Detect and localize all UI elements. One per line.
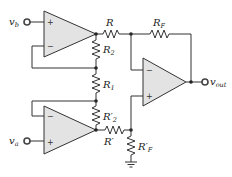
label-R2-prime: R′2 <box>102 111 117 124</box>
right-opamp-plus: + <box>146 92 153 101</box>
resistor-RF-prime <box>127 130 135 162</box>
top-opamp-minus: − <box>47 42 54 51</box>
vout-terminal <box>202 79 208 85</box>
va-label: va <box>9 135 19 148</box>
label-R: R <box>105 17 114 28</box>
resistor-R2 <box>92 34 100 68</box>
vout-label: vout <box>210 76 227 89</box>
vb-label: vb <box>9 16 19 29</box>
circuit-svg: + − vb R RF R2 R1 R′2 − + va R′ R′F <box>0 0 232 177</box>
label-RF-prime: R′F <box>137 141 153 154</box>
output-node <box>189 80 193 84</box>
top-opamp-plus: + <box>47 18 54 27</box>
label-R1: R1 <box>102 79 115 92</box>
noninv-input-wire <box>131 96 143 130</box>
bottom-opamp-plus: + <box>47 138 54 147</box>
top-feedback-wire <box>32 46 96 68</box>
bottom-opamp-minus: − <box>47 112 54 121</box>
resistor-R <box>100 30 131 38</box>
inv-input-wire <box>131 34 143 70</box>
vb-terminal <box>24 19 30 25</box>
label-RF: RF <box>152 17 166 30</box>
label-R2: R2 <box>102 44 115 57</box>
resistor-R1 <box>92 68 100 101</box>
resistor-R-prime <box>96 126 131 134</box>
va-terminal <box>24 138 30 144</box>
right-opamp-minus: − <box>146 66 153 75</box>
ground-icon <box>125 162 137 167</box>
circuit-diagram: + − vb R RF R2 R1 R′2 − + va R′ R′F <box>0 0 232 177</box>
label-R-prime: R′ <box>103 136 115 147</box>
resistor-R2-prime <box>92 101 100 130</box>
bottom-feedback-wire <box>32 101 96 116</box>
